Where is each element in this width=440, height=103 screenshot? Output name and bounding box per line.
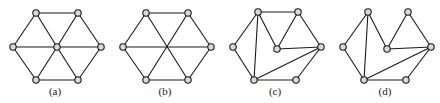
graph-edge (364, 12, 368, 80)
graph-edge (364, 47, 431, 80)
graph-vertex (384, 46, 390, 52)
graph-vertex (318, 44, 324, 50)
graph-edge (78, 47, 101, 80)
graph-edge (233, 47, 254, 80)
graph-vertex (405, 9, 411, 15)
graph-edge (277, 47, 321, 49)
graph-vertex (143, 10, 149, 16)
graph-vertex (293, 77, 299, 83)
graph-panel-b: (b) (110, 0, 220, 103)
graph-caption-b: (b) (110, 84, 220, 98)
graph-edge (368, 12, 387, 49)
graph-edge (387, 47, 431, 49)
graph-drawing-a (0, 0, 110, 88)
graph-edge (188, 47, 211, 80)
graph-vertex (120, 44, 126, 50)
graph-panel-c: (c) (220, 0, 330, 103)
graph-vertex (143, 77, 149, 83)
graph-vertex (185, 10, 191, 16)
graph-edge (57, 47, 78, 80)
graph-vertex (428, 44, 434, 50)
graph-vertex (295, 9, 301, 15)
graph-drawing-d (330, 0, 440, 88)
graph-vertex (230, 44, 236, 50)
graph-edge (343, 47, 364, 80)
graph-drawing-c (220, 0, 330, 88)
graph-vertex (361, 77, 367, 83)
graph-vertex (251, 77, 257, 83)
graph-vertex (10, 44, 16, 50)
graph-vertex (33, 10, 39, 16)
graph-drawing-b (110, 0, 220, 88)
graph-edge (258, 12, 277, 49)
graph-vertex (33, 77, 39, 83)
graph-caption-a: (a) (0, 84, 110, 98)
vertex-layer (340, 9, 434, 83)
graph-edge (343, 12, 368, 47)
graph-edge (298, 12, 321, 47)
graph-edge (13, 13, 36, 47)
graph-vertex (185, 77, 191, 83)
graph-vertex (75, 77, 81, 83)
graph-edge (36, 47, 57, 80)
graph-vertex (403, 77, 409, 83)
graph-edge (233, 12, 258, 47)
graph-edge (254, 12, 258, 80)
graph-edge (387, 12, 408, 49)
graph-edge (408, 12, 431, 47)
graph-edge (406, 47, 431, 80)
graph-edge (188, 13, 211, 47)
graph-vertex (208, 44, 214, 50)
graph-edge (123, 13, 146, 47)
graph-caption-c: (c) (220, 84, 330, 98)
graph-edge (254, 47, 321, 80)
graph-edge (296, 47, 321, 80)
graph-edge (13, 47, 36, 80)
graph-vertex (54, 44, 60, 50)
edge-layer (123, 13, 211, 80)
graph-edge (78, 13, 101, 47)
graph-vertex (274, 46, 280, 52)
graph-edge (123, 47, 146, 80)
graph-figure: (a) (b) (c) (d) (0, 0, 440, 103)
vertex-layer (230, 9, 324, 83)
graph-vertex (75, 10, 81, 16)
graph-panel-a: (a) (0, 0, 110, 103)
graph-edge (277, 12, 298, 49)
graph-vertex (365, 9, 371, 15)
graph-vertex (340, 44, 346, 50)
graph-panel-d: (d) (330, 0, 440, 103)
graph-vertex (255, 9, 261, 15)
graph-edge (57, 13, 78, 47)
graph-edge (36, 13, 57, 47)
graph-vertex (98, 44, 104, 50)
graph-caption-d: (d) (330, 84, 440, 98)
